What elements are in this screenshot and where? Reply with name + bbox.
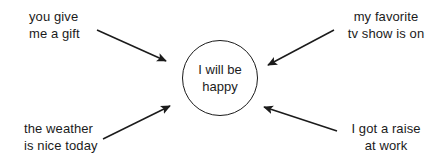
node-top-left-line-2: me a gift: [29, 25, 80, 42]
center-node-line-2: happy: [202, 78, 237, 95]
node-top-right: my favorite tv show is on: [341, 8, 431, 42]
concept-map-diagram: you give me a gift my favorite tv show i…: [0, 0, 437, 164]
node-bottom-right-line-2: at work: [341, 137, 431, 154]
node-bottom-left-line-1: the weather: [24, 120, 98, 137]
center-node-circle: I will be happy: [182, 40, 258, 116]
node-bottom-right-line-1: I got a raise: [341, 120, 431, 137]
node-top-left: you give me a gift: [29, 8, 80, 42]
node-bottom-left-line-2: is nice today: [24, 137, 98, 154]
node-top-right-line-1: my favorite: [341, 8, 431, 25]
arrow-top-right-to-center: [268, 30, 334, 65]
center-node-line-1: I will be: [198, 61, 241, 78]
arrow-bottom-left-to-center: [103, 106, 170, 139]
node-top-left-line-1: you give: [29, 8, 80, 25]
arrow-bottom-right-to-center: [264, 107, 337, 131]
arrow-top-left-to-center: [97, 30, 166, 61]
node-bottom-right: I got a raise at work: [341, 120, 431, 154]
node-bottom-left: the weather is nice today: [24, 120, 98, 154]
node-top-right-line-2: tv show is on: [341, 25, 431, 42]
